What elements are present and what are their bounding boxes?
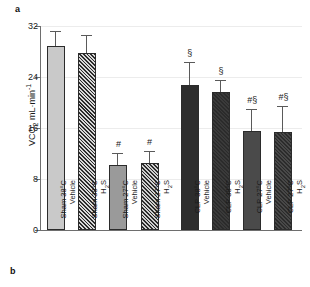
category-label-line2: Vehicle xyxy=(202,180,211,234)
category-label: Sham 27°CVehicle xyxy=(122,180,134,234)
category-label: CLP 38°CH2S xyxy=(225,180,237,234)
category-label-line2: H2S xyxy=(162,180,173,234)
y-tick-label-32: 32 xyxy=(10,22,38,31)
category-label: Sham 38°CH2S xyxy=(91,180,103,234)
gridline-32 xyxy=(41,26,302,27)
y-axis-title-superscript: -1 xyxy=(25,84,32,90)
category-label: CLP 27°CVehicle xyxy=(256,180,268,234)
figure-panel-a: a b VCO2 mL·min-1 08162432 ##§§#§#§ Sham… xyxy=(0,0,310,287)
category-label: CLP 27°CH2S xyxy=(287,180,299,234)
category-label-line2: Vehicle xyxy=(69,180,78,234)
category-label: Sham 27°CH2S xyxy=(154,180,166,234)
error-bar xyxy=(251,110,252,131)
category-label-line2: Vehicle xyxy=(131,180,140,234)
y-axis-title: VCO2 mL·min-1 xyxy=(25,40,39,190)
y-axis-line xyxy=(40,26,41,231)
category-label-line2: H2S xyxy=(100,180,111,234)
error-bar xyxy=(86,36,87,53)
category-label: Sham 38°CVehicle xyxy=(60,180,72,234)
significance-marker: # xyxy=(103,140,133,149)
y-tick-label-24: 24 xyxy=(10,73,38,82)
y-tick-label-16: 16 xyxy=(10,124,38,133)
y-tick-label-8: 8 xyxy=(10,175,38,184)
category-label: CLP 38°CVehicle xyxy=(194,180,206,234)
error-bar xyxy=(220,81,221,92)
significance-marker: #§ xyxy=(237,96,267,105)
bar-chart-plot-area: VCO2 mL·min-1 08162432 ##§§#§#§ Sham 38°… xyxy=(0,0,310,287)
error-bar-cap xyxy=(215,80,226,81)
error-bar xyxy=(117,154,118,165)
error-bar xyxy=(149,152,150,163)
significance-marker: # xyxy=(135,138,165,147)
error-bar xyxy=(189,63,190,85)
category-label-line2: H2S xyxy=(234,180,245,234)
error-bar-cap xyxy=(144,151,155,152)
error-bar-cap xyxy=(184,62,195,63)
error-bar xyxy=(55,32,56,47)
category-label-line1: Sham 27°C xyxy=(154,180,163,234)
error-bar-cap xyxy=(50,31,61,32)
significance-marker: § xyxy=(175,49,205,58)
error-bar-cap xyxy=(246,109,257,110)
error-bar-cap xyxy=(81,35,92,36)
category-label-line2: H2S xyxy=(296,180,307,234)
y-tick-label-0: 0 xyxy=(10,226,38,235)
significance-marker: § xyxy=(206,67,236,76)
error-bar-cap xyxy=(277,106,288,107)
category-label-line2: Vehicle xyxy=(265,180,274,234)
y-axis-title-tail: mL·min xyxy=(27,90,37,123)
error-bar xyxy=(282,107,283,133)
significance-marker: #§ xyxy=(268,93,298,102)
error-bar-cap xyxy=(112,153,123,154)
